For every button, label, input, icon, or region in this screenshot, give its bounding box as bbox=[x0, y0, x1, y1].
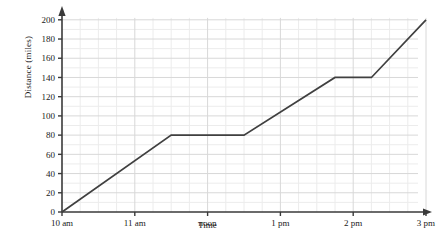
y-axis-title: Distance (miles) bbox=[17, 7, 31, 127]
y-tick-label: 120 bbox=[42, 92, 56, 102]
y-tick-label: 60 bbox=[46, 150, 56, 160]
x-tick-label: 2 pm bbox=[344, 218, 362, 228]
chart-plot-area: 020406080100120140160180200 10 am11 amno… bbox=[0, 0, 444, 238]
y-tick-label: 0 bbox=[51, 207, 56, 217]
y-tick-label: 80 bbox=[46, 130, 56, 140]
axis-lines bbox=[58, 6, 432, 216]
y-tick-labels: 020406080100120140160180200 bbox=[42, 15, 56, 217]
y-tick-label: 100 bbox=[42, 111, 56, 121]
x-tick-labels: 10 am11 amnoon1 pm2 pm3 pm bbox=[51, 218, 435, 228]
y-tick-label: 160 bbox=[42, 53, 56, 63]
x-tick-label: 1 pm bbox=[271, 218, 289, 228]
y-tick-label: 140 bbox=[42, 73, 56, 83]
x-tick-label: 3 pm bbox=[417, 218, 435, 228]
x-tick-label: 10 am bbox=[51, 218, 73, 228]
x-tick-label: 11 am bbox=[124, 218, 146, 228]
distance-time-chart: 020406080100120140160180200 10 am11 amno… bbox=[0, 0, 444, 238]
y-tick-label: 40 bbox=[46, 169, 56, 179]
minor-gridlines bbox=[62, 18, 418, 212]
axis-tick-marks bbox=[58, 20, 426, 216]
x-axis-title: Time bbox=[198, 220, 217, 230]
y-tick-label: 20 bbox=[46, 188, 56, 198]
y-tick-label: 200 bbox=[42, 15, 56, 25]
y-axis-title-text: Distance (miles) bbox=[23, 36, 33, 98]
y-tick-label: 180 bbox=[42, 34, 56, 44]
